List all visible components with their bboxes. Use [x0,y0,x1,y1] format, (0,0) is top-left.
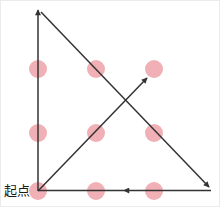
solution-path-lines [38,10,211,191]
puzzle-svg: 起点 [1,1,219,206]
start-point-label: 起点 [4,183,30,198]
puzzle-dot [87,124,105,142]
stroke-diagonal-up-right [38,78,147,191]
puzzle-dot [145,60,163,78]
puzzle-dot [145,124,163,142]
nine-dot-puzzle-diagram: 起点 [0,0,220,207]
